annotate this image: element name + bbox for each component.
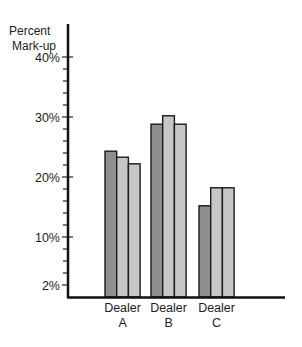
bar-b-series-1 (151, 124, 163, 297)
bar-chart: Percent Mark-up 40%30%20%10%2% DealerADe… (0, 0, 302, 347)
bar-a-series-1 (105, 151, 117, 297)
bars-group (105, 116, 234, 297)
y-axis-label-line1: Percent (9, 24, 51, 38)
y-tick-label: 2% (42, 279, 60, 293)
bar-c-series-3 (222, 188, 234, 297)
bar-b-series-3 (174, 124, 186, 297)
category-label-line1: Dealer (104, 301, 141, 315)
y-tick-label: 20% (35, 171, 60, 185)
bar-a-series-3 (128, 164, 140, 297)
bar-c-series-1 (199, 206, 211, 297)
bar-c-series-2 (211, 188, 223, 297)
bar-a-series-2 (117, 157, 129, 297)
category-label-line1: Dealer (150, 301, 187, 315)
bar-b-series-2 (163, 116, 175, 297)
category-label-line1: Dealer (198, 301, 235, 315)
y-tick-label: 30% (35, 111, 60, 125)
y-tick-labels-group: 40%30%20%10%2% (35, 51, 60, 293)
y-tick-label: 40% (35, 51, 60, 65)
category-labels-group: DealerADealerBDealerC (104, 301, 235, 330)
category-label-line2: A (118, 316, 127, 330)
category-label-line2: C (212, 316, 221, 330)
category-label-line2: B (164, 316, 172, 330)
y-tick-label: 10% (35, 231, 60, 245)
